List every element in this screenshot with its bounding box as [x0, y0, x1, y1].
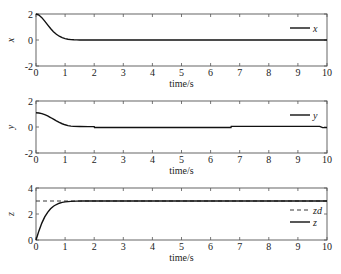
y-axis-label: y	[5, 124, 16, 130]
x-tick-label: 0	[34, 154, 39, 165]
subplot-z: 012345678910024time/szzdz	[5, 183, 332, 264]
x-axis-label: time/s	[169, 165, 194, 176]
x-tick-label: 0	[34, 241, 39, 252]
x-tick-label: 10	[322, 241, 332, 252]
x-tick-label: 9	[295, 241, 300, 252]
axes-frame	[36, 188, 327, 240]
y-tick-label: -2	[25, 148, 33, 159]
x-axis-label: time/s	[169, 252, 194, 263]
x-tick-label: 7	[237, 67, 242, 78]
x-tick-label: 4	[150, 154, 155, 165]
series-line-z	[36, 201, 327, 240]
y-tick-label: 0	[28, 122, 33, 133]
x-tick-label: 1	[63, 154, 68, 165]
x-tick-label: 3	[121, 67, 126, 78]
x-tick-label: 3	[121, 154, 126, 165]
x-tick-label: 6	[208, 154, 213, 165]
x-tick-label: 2	[92, 154, 97, 165]
x-tick-label: 5	[179, 154, 184, 165]
x-tick-label: 6	[208, 67, 213, 78]
x-tick-label: 2	[92, 67, 97, 78]
x-tick-label: 4	[150, 241, 155, 252]
x-tick-label: 7	[237, 241, 242, 252]
series-line-x	[36, 14, 327, 40]
x-tick-label: 8	[266, 67, 271, 78]
y-tick-label: 0	[28, 35, 33, 46]
x-tick-label: 5	[179, 67, 184, 78]
x-tick-label: 8	[266, 154, 271, 165]
x-tick-label: 2	[92, 241, 97, 252]
x-axis-label: time/s	[169, 78, 194, 89]
x-tick-label: 9	[295, 154, 300, 165]
y-tick-label: 4	[28, 183, 33, 194]
x-tick-label: 1	[63, 241, 68, 252]
x-tick-label: 7	[237, 154, 242, 165]
x-tick-label: 1	[63, 67, 68, 78]
series-line-y	[36, 113, 327, 128]
x-tick-label: 9	[295, 67, 300, 78]
x-tick-label: 3	[121, 241, 126, 252]
subplot-y: 012345678910-202time/syy	[5, 96, 332, 177]
y-tick-label: -2	[25, 61, 33, 72]
legend-label-z: z	[312, 217, 317, 228]
y-axis-label: x	[5, 37, 16, 43]
x-tick-label: 10	[322, 154, 332, 165]
y-tick-label: 2	[28, 9, 33, 20]
x-tick-label: 4	[150, 67, 155, 78]
legend-label-x: x	[312, 23, 318, 34]
subplot-x: 012345678910-202time/sxx	[5, 9, 332, 90]
y-axis-label: z	[5, 212, 16, 217]
legend-label-y: y	[312, 110, 318, 121]
x-tick-label: 0	[34, 67, 39, 78]
legend-label-zd: zd	[312, 205, 323, 216]
y-tick-label: 2	[28, 96, 33, 107]
x-tick-label: 5	[179, 241, 184, 252]
x-tick-label: 6	[208, 241, 213, 252]
x-tick-label: 10	[322, 67, 332, 78]
y-tick-label: 0	[28, 235, 33, 246]
chart-figure: 012345678910-202time/sxx012345678910-202…	[0, 0, 341, 274]
y-tick-label: 2	[28, 209, 33, 220]
x-tick-label: 8	[266, 241, 271, 252]
